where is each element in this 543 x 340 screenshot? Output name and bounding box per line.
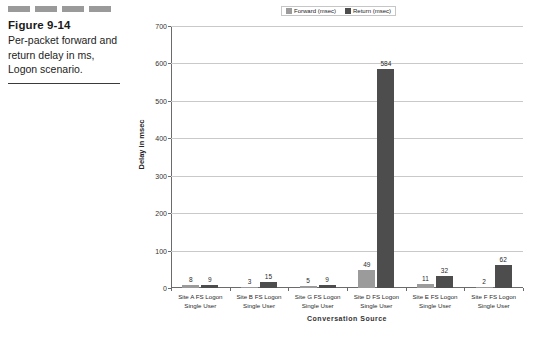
legend-swatch-forward (286, 8, 292, 14)
bar-value-label: 9 (208, 276, 212, 283)
x-axis-title: Conversation Source (307, 315, 387, 322)
x-category-label: Site A FS LogonSingle User (169, 293, 231, 310)
legend-label-return: Return (msec) (353, 8, 391, 14)
x-category-label: Site D FS LogonSingle User (345, 293, 407, 310)
bar-group[interactable]: 59 (288, 26, 347, 288)
bar-return[interactable]: 584 (377, 69, 394, 288)
x-category-label-line2: Single User (463, 302, 525, 311)
bar-value-label: 49 (363, 261, 370, 268)
y-tick-label: 600 (155, 60, 167, 67)
bar-group[interactable]: 89 (171, 26, 230, 288)
figure-caption-text: Per-packet forward and return delay in m… (8, 33, 126, 77)
figure-caption-block: Figure 9-14 Per-packet forward and retur… (8, 6, 126, 84)
x-category-label: Site B FS LogonSingle User (228, 293, 290, 310)
x-category-label-line1: Site D FS Logon (345, 293, 407, 302)
bar-group[interactable]: 262 (464, 26, 523, 288)
bar-forward[interactable]: 8 (182, 285, 199, 288)
y-tick-label: 700 (155, 23, 167, 30)
bar-value-label: 62 (500, 256, 507, 263)
x-category-label-line2: Single User (404, 302, 466, 311)
x-category-label: Site F FS LogonSingle User (463, 293, 525, 310)
bar-value-label: 8 (189, 276, 193, 283)
x-category-label-line1: Site F FS Logon (463, 293, 525, 302)
x-tick-mark (347, 288, 348, 291)
bar-return[interactable]: 32 (436, 276, 453, 288)
bar-value-label: 2 (482, 278, 486, 285)
bar-return[interactable]: 9 (319, 285, 336, 288)
y-tick-label: 0 (163, 285, 167, 292)
x-category-label: Site G FS LogonSingle User (287, 293, 349, 310)
x-category-label-line2: Single User (169, 302, 231, 311)
y-axis-title: Delay in msec (137, 119, 146, 169)
bar-return[interactable]: 9 (201, 285, 218, 288)
legend-entry-forward: Forward (msec) (286, 8, 336, 14)
figure-number: Figure 9-14 (8, 18, 126, 32)
x-category-label-line1: Site E FS Logon (404, 293, 466, 302)
caption-divider (8, 83, 120, 84)
bar-group[interactable]: 49584 (347, 26, 406, 288)
decorative-bars (8, 6, 126, 12)
bar-value-label: 32 (441, 267, 448, 274)
x-category-label: Site E FS LogonSingle User (404, 293, 466, 310)
bar-return[interactable]: 62 (495, 265, 512, 288)
y-tick-label: 100 (155, 247, 167, 254)
bar-forward[interactable]: 5 (300, 286, 317, 288)
y-tick-label: 400 (155, 135, 167, 142)
legend-entry-return: Return (msec) (345, 8, 391, 14)
x-tick-mark (523, 288, 524, 291)
y-tick-label: 500 (155, 97, 167, 104)
bar-group[interactable]: 1132 (406, 26, 465, 288)
x-category-label-line2: Single User (287, 302, 349, 311)
bar-value-label: 584 (380, 60, 391, 67)
y-tick-label: 300 (155, 172, 167, 179)
decorative-bar (8, 6, 30, 12)
bar-value-label: 5 (306, 277, 310, 284)
bar-return[interactable]: 15 (260, 282, 277, 288)
bar-group[interactable]: 315 (230, 26, 289, 288)
bar-forward[interactable]: 3 (241, 287, 258, 288)
bar-value-label: 3 (248, 278, 252, 285)
x-tick-mark (464, 288, 465, 291)
x-tick-mark (171, 288, 172, 291)
chart-legend: Forward (msec) Return (msec) (281, 6, 396, 16)
x-category-label-line1: Site B FS Logon (228, 293, 290, 302)
bar-series-layer: 8931559495841132262 (171, 26, 523, 288)
decorative-bar (62, 6, 84, 12)
plot-area: 0100200300400500600700 89315594958411322… (171, 26, 523, 288)
x-category-label-line1: Site G FS Logon (287, 293, 349, 302)
x-tick-mark (406, 288, 407, 291)
bar-value-label: 15 (265, 273, 272, 280)
chart: Forward (msec) Return (msec) Delay in ms… (126, 0, 543, 340)
decorative-bar (89, 6, 111, 12)
bar-forward[interactable]: 49 (358, 270, 375, 288)
x-category-label-line2: Single User (228, 302, 290, 311)
legend-swatch-return (345, 8, 351, 14)
bar-forward[interactable]: 11 (417, 284, 434, 288)
x-tick-mark (230, 288, 231, 291)
bar-value-label: 9 (325, 276, 329, 283)
x-tick-mark (288, 288, 289, 291)
bar-forward[interactable]: 2 (476, 287, 493, 288)
bar-value-label: 11 (422, 275, 429, 282)
decorative-bar (35, 6, 57, 12)
legend-label-forward: Forward (msec) (294, 8, 336, 14)
y-tick-label: 200 (155, 210, 167, 217)
x-category-label-line2: Single User (345, 302, 407, 311)
x-category-label-line1: Site A FS Logon (169, 293, 231, 302)
